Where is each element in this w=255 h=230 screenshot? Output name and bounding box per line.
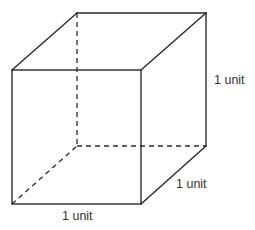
- cube-diagram: [0, 0, 255, 230]
- edge-bottom-right-diagonal: [141, 146, 206, 204]
- depth-label: 1 unit: [176, 178, 207, 191]
- front-face: [12, 70, 141, 204]
- width-label: 1 unit: [62, 210, 93, 223]
- edge-top-left-diagonal: [12, 13, 77, 70]
- edge-top-right-diagonal: [141, 13, 206, 70]
- height-label: 1 unit: [214, 74, 245, 87]
- hidden-edge-bottom-left-diagonal: [12, 146, 77, 204]
